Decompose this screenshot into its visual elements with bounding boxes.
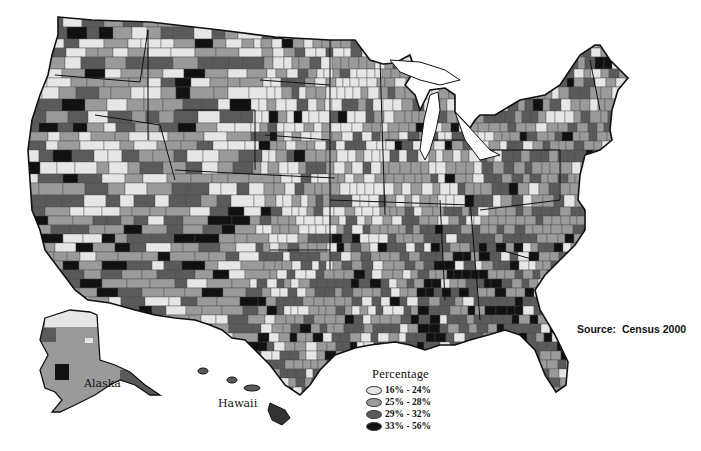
legend-item: 29% - 32% [366, 408, 476, 420]
legend: Percentage 16% - 24% 25% - 28% 29% - 32%… [366, 367, 476, 432]
legend-item-label: 16% - 24% [385, 385, 431, 395]
legend-swatch-icon [366, 422, 382, 431]
legend-swatch-icon [366, 398, 382, 407]
conus-counties [25, 15, 644, 405]
source-note: Source: Census 2000 [577, 323, 686, 335]
alaska-label: Alaska [84, 377, 121, 390]
legend-item-label: 33% - 56% [385, 421, 431, 431]
legend-swatch-icon [366, 410, 382, 419]
legend-item: 33% - 56% [366, 420, 476, 432]
legend-item-label: 29% - 32% [385, 409, 431, 419]
hawaii-label: Hawaii [218, 397, 257, 410]
legend-swatch-icon [366, 386, 382, 395]
legend-title: Percentage [372, 367, 476, 382]
legend-item-label: 25% - 28% [385, 397, 431, 407]
legend-item: 16% - 24% [366, 384, 476, 396]
legend-item: 25% - 28% [366, 396, 476, 408]
